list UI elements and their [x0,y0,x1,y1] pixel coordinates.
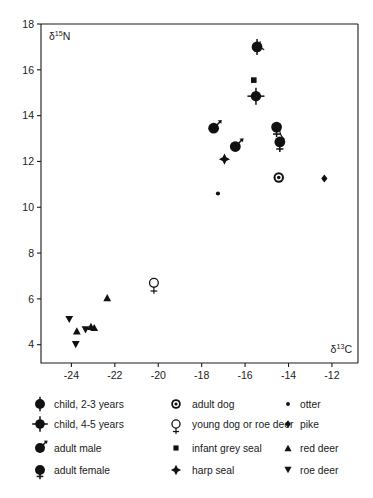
legend-item-red-deer[interactable]: red deer [284,443,339,454]
series-infant-grey-seal [251,77,257,83]
plot-frame [41,24,358,363]
marker-circle-ringed [171,399,181,409]
legend-label: child, 2-3 years [54,399,124,410]
chart-canvas: 4681012141618 -24-22-20-18-16-14-12 δ15N… [0,0,373,498]
marker-square [173,445,178,450]
legend-item-harp-seal[interactable]: harp seal [171,465,235,476]
data-points-layer [65,39,327,348]
series-red-deer [73,294,111,334]
marker-circle-ringed [274,172,284,182]
y-tick-label: 6 [28,293,34,305]
marker-circle-cross-bar [247,88,264,105]
legend-label: child, 4-5 years [54,419,124,430]
y-tick-label: 18 [22,18,34,30]
marker-star4 [171,465,181,475]
y-axis-title: δ15N [49,29,70,42]
legend-label: harp seal [192,465,234,476]
series-child-4-5-years [247,88,264,105]
legend-label: pike [300,419,319,430]
marker-triangle-down [72,341,80,348]
marker-circle-arrow [35,440,48,453]
x-tick-label: -12 [324,369,339,381]
legend-item-adult-female[interactable]: adult female [35,465,110,479]
legend-label: young dog or roe deer [192,419,294,430]
legend-label: roe deer [300,465,339,476]
marker-circle-open-female [150,278,159,293]
marker-circle-cross-bar [32,416,48,432]
x-tick-label: -14 [281,369,296,381]
series-otter [216,191,220,195]
legend-item-adult-dog[interactable]: adult dog [171,399,234,410]
legend-item-adult-male[interactable]: adult male [35,440,102,454]
y-tick-label: 8 [28,247,34,259]
legend-item-roe-deer[interactable]: roe deer [284,465,339,476]
x-tick-label: -24 [64,369,79,381]
y-tick-label: 16 [22,64,34,76]
marker-triangle-up [73,327,81,334]
legend-label: otter [300,399,321,410]
series-pike [321,175,327,183]
marker-triangle-down [284,467,291,474]
x-tick-label: -16 [238,369,253,381]
marker-circle-arrow [230,138,244,152]
legend-label: adult dog [192,399,235,410]
marker-square [251,77,257,83]
marker-dot [216,191,220,195]
series-harp-seal [219,154,230,165]
series-adult-dog [274,172,284,182]
series-adult-female [271,122,285,152]
axis-titles: δ15Nδ13C [49,29,352,355]
legend-item-young-dog-or-roe-deer[interactable]: young dog or roe deer [172,419,294,434]
legend-item-child-2-3-years[interactable]: child, 2-3 years [35,397,124,412]
y-tick-label: 4 [28,338,34,350]
isotope-scatter-figure: 4681012141618 -24-22-20-18-16-14-12 δ15N… [0,0,373,498]
y-tick-label: 12 [22,155,34,167]
legend-label: infant grey seal [192,443,262,454]
x-axis: -24-22-20-18-16-14-12 [64,363,340,381]
legend-item-otter[interactable]: otter [286,399,321,410]
legend-item-infant-grey-seal[interactable]: infant grey seal [173,443,261,454]
series-adult-male [208,120,243,152]
marker-triangle-down [65,316,73,323]
series-young-dog-or-roe-deer [150,278,159,293]
marker-circle-bar [35,397,45,412]
marker-circle-open-female [172,420,180,434]
y-tick-label: 14 [22,109,34,121]
marker-triangle-up [103,294,111,301]
x-axis-title: δ13C [331,342,353,355]
legend-label: adult male [54,443,102,454]
y-axis: 4681012141618 [22,18,41,351]
legend-label: adult female [54,465,110,476]
marker-triangle-up [284,445,291,452]
legend-label: red deer [300,443,339,454]
marker-star4 [219,154,230,165]
legend-item-child-4-5-years[interactable]: child, 4-5 years [32,416,124,432]
y-tick-label: 10 [22,201,34,213]
marker-circle-female [35,465,45,479]
marker-circle-arrow [208,120,222,134]
axis-spines [41,24,358,363]
chart-legend: child, 2-3 yearschild, 4-5 yearsadult ma… [32,397,339,480]
marker-dot [286,402,290,406]
marker-diamond [321,175,327,183]
x-tick-label: -22 [107,369,122,381]
x-tick-label: -20 [151,369,166,381]
x-tick-label: -18 [194,369,209,381]
